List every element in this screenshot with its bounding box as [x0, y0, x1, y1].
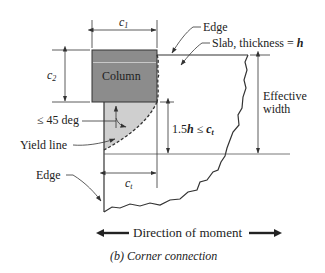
yield-zone: [104, 102, 157, 150]
label-ct: ct: [125, 177, 133, 193]
figure-caption: (b) Corner connection: [110, 249, 217, 264]
label-depth: 1.5h ≤ ct: [172, 123, 214, 139]
label-direction-of-moment: Direction of moment: [133, 226, 242, 239]
label-angle: ≤ 45 deg: [37, 114, 79, 127]
label-column: Column: [102, 70, 141, 83]
label-edge-top: Edge: [203, 21, 228, 34]
label-slab-thickness: Slab, thickness = h: [212, 37, 303, 50]
label-c2: c2: [47, 69, 56, 85]
label-edge-left: Edge: [36, 169, 61, 182]
label-c1: c1: [119, 16, 128, 32]
dimension-c2: [52, 50, 90, 102]
label-effective-width: Effectivewidth: [263, 90, 307, 116]
label-yield-line: Yield line: [20, 139, 67, 152]
